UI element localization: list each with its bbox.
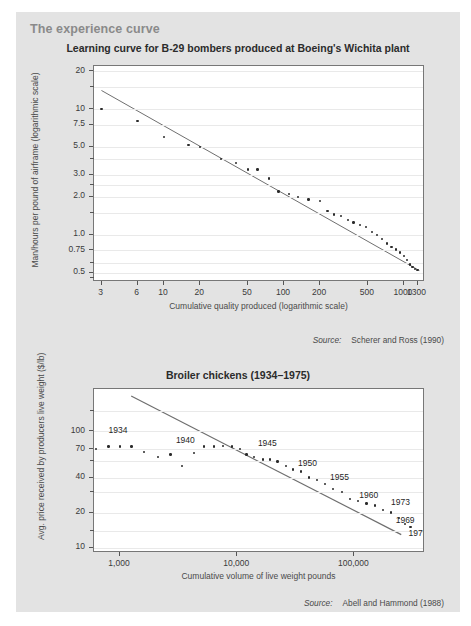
gridline xyxy=(94,185,423,186)
x-tick-mark xyxy=(137,281,138,285)
data-point xyxy=(371,231,373,233)
data-point xyxy=(256,168,258,170)
x-tick-label: 10,000 xyxy=(211,558,261,568)
y-tick-mark-minor xyxy=(90,184,94,185)
data-point xyxy=(374,504,376,506)
data-point xyxy=(324,483,326,485)
y-tick-mark-minor xyxy=(90,530,94,531)
data-point xyxy=(269,458,271,460)
data-point xyxy=(130,445,132,447)
x-tick-mark xyxy=(417,281,418,285)
y-tick-label: 5.0 xyxy=(51,140,85,150)
data-point xyxy=(245,453,247,455)
data-point xyxy=(332,488,334,490)
y-tick-mark xyxy=(89,146,93,147)
chart2-y-axis-title: Avg. price received by producers live we… xyxy=(36,372,46,540)
data-point xyxy=(399,251,401,253)
data-point xyxy=(359,224,361,226)
data-point xyxy=(403,255,405,257)
data-point xyxy=(390,511,392,513)
gridline xyxy=(94,513,423,514)
data-point xyxy=(297,196,299,198)
data-point xyxy=(319,200,321,202)
y-tick-label: 70 xyxy=(51,443,85,453)
data-point xyxy=(100,108,102,110)
data-point xyxy=(119,445,121,447)
y-tick-mark xyxy=(89,249,93,250)
y-tick-label: 1.0 xyxy=(51,228,85,238)
data-point xyxy=(406,259,408,261)
y-tick-mark xyxy=(89,108,93,109)
data-point xyxy=(187,144,189,146)
x-tick-mark xyxy=(319,281,320,285)
chart1-y-axis-title: Man/hours per pound of airframe (logarit… xyxy=(30,70,40,270)
chart2-source-word: Source: xyxy=(304,598,333,608)
chart2-plot-area: 193419401945195019551960197319691975 xyxy=(93,388,424,552)
y-tick-mark-minor xyxy=(90,86,94,87)
x-tick-mark xyxy=(119,552,120,556)
data-point xyxy=(316,479,318,481)
data-point xyxy=(326,210,328,212)
y-tick-label: 2.0 xyxy=(51,190,85,200)
data-point xyxy=(231,445,233,447)
data-point xyxy=(382,509,384,511)
x-tick-label: 1,000 xyxy=(94,558,144,568)
data-point xyxy=(395,248,397,250)
data-point xyxy=(222,445,224,447)
y-tick-mark-minor xyxy=(90,158,94,159)
data-point xyxy=(390,246,392,248)
y-tick-mark-minor xyxy=(90,491,94,492)
gridline xyxy=(94,548,423,549)
gridline xyxy=(94,197,423,198)
data-point xyxy=(268,177,270,179)
x-tick-mark xyxy=(163,281,164,285)
gridline xyxy=(94,250,423,251)
data-point xyxy=(136,120,138,122)
data-point xyxy=(288,193,290,195)
data-point xyxy=(169,453,171,455)
x-tick-label: 20 xyxy=(174,287,224,297)
gridline xyxy=(94,147,423,148)
x-tick-label: 200 xyxy=(294,287,344,297)
data-point xyxy=(193,452,195,454)
x-tick-mark xyxy=(101,281,102,285)
y-tick-mark-minor xyxy=(90,277,94,278)
gridline xyxy=(94,263,423,264)
data-point xyxy=(163,136,165,138)
data-point xyxy=(416,269,418,271)
gridline xyxy=(94,213,423,214)
data-point xyxy=(349,498,351,500)
chart1-plot-area xyxy=(93,65,424,281)
y-tick-label: 20 xyxy=(51,506,85,516)
y-tick-mark xyxy=(89,512,93,513)
y-tick-label: 10 xyxy=(51,541,85,551)
data-point xyxy=(386,242,388,244)
chart2-source: Source:Abell and Hammond (1988) xyxy=(16,598,444,608)
y-tick-label: 20 xyxy=(51,65,85,75)
y-tick-mark xyxy=(89,234,93,235)
gridline xyxy=(94,411,423,412)
data-point xyxy=(203,445,205,447)
data-point xyxy=(292,468,294,470)
chart1-source-text: Scherer and Ross (1990) xyxy=(351,335,444,345)
data-point-label: 1969 xyxy=(396,515,415,525)
x-tick-mark xyxy=(367,281,368,285)
chart2-x-axis-title: Cumulative volume of live weight pounds xyxy=(93,571,424,581)
data-point-label: 1940 xyxy=(176,435,195,445)
y-tick-mark xyxy=(89,272,93,273)
data-point xyxy=(107,445,109,447)
y-tick-mark xyxy=(89,430,93,431)
chart1-trendline xyxy=(94,66,423,280)
data-point xyxy=(340,215,342,217)
y-tick-label: 7.5 xyxy=(51,118,85,128)
data-point xyxy=(357,500,359,502)
chart2-title: Broiler chickens (1934–1975) xyxy=(16,369,460,381)
gridline xyxy=(94,478,423,479)
data-point-label: 1975 xyxy=(409,528,424,538)
y-tick-mark-minor xyxy=(90,262,94,263)
y-tick-mark xyxy=(89,547,93,548)
data-point-label: 1960 xyxy=(359,490,378,500)
gridline xyxy=(94,175,423,176)
y-tick-mark-minor xyxy=(90,212,94,213)
y-tick-mark xyxy=(89,70,93,71)
